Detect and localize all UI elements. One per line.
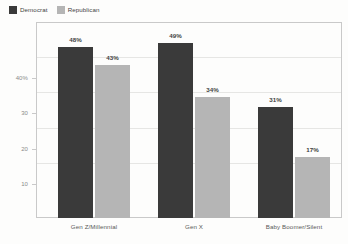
bar-republican-baby-boomer[interactable] xyxy=(295,157,330,218)
legend-label-republican: Republican xyxy=(68,6,100,14)
bar-value-republican-gen-x: 34% xyxy=(195,86,230,94)
bar-chart: Democrat Republican 40% 30 20 10 48% 43% xyxy=(0,0,348,244)
x-tick-label-baby-boomer-silent: Baby Boomer/Silent xyxy=(248,223,340,231)
legend-item-republican[interactable]: Republican xyxy=(57,6,100,14)
legend-label-democrat: Democrat xyxy=(20,6,48,14)
y-axis: 40% 30 20 10 xyxy=(0,22,36,218)
chart-legend: Democrat Republican xyxy=(9,4,100,15)
y-tick-label-40: 40% xyxy=(0,75,28,82)
y-tick-label-20: 20 xyxy=(0,146,28,153)
bar-value-republican-gen-z: 43% xyxy=(95,54,130,62)
x-tick-label-gen-z-millennial: Gen Z/Millennial xyxy=(48,223,140,231)
bar-democrat-baby-boomer[interactable] xyxy=(258,107,293,218)
y-tick-label-10: 10 xyxy=(0,181,28,188)
bar-republican-gen-x[interactable] xyxy=(195,97,230,218)
bar-value-democrat-gen-x: 49% xyxy=(158,32,193,40)
legend-swatch-democrat xyxy=(9,6,17,14)
legend-swatch-republican xyxy=(57,6,65,14)
bars-layer: 48% 43% 49% 34% 31% 17% xyxy=(36,22,342,218)
x-axis: Gen Z/Millennial Gen X Baby Boomer/Silen… xyxy=(36,218,342,242)
bar-democrat-gen-x[interactable] xyxy=(158,43,193,218)
bar-democrat-gen-z[interactable] xyxy=(58,47,93,218)
legend-item-democrat[interactable]: Democrat xyxy=(9,6,48,14)
bar-group-gen-x: 49% 34% xyxy=(158,22,230,218)
y-tick-label-30: 30 xyxy=(0,110,28,117)
bar-value-democrat-baby-boomer: 31% xyxy=(258,96,293,104)
x-tick-label-gen-x: Gen X xyxy=(148,223,240,231)
bar-group-gen-z-millennial: 48% 43% xyxy=(58,22,130,218)
bar-group-baby-boomer-silent: 31% 17% xyxy=(258,22,330,218)
bar-value-republican-baby-boomer: 17% xyxy=(295,146,330,154)
bar-value-democrat-gen-z: 48% xyxy=(58,36,93,44)
bar-republican-gen-z[interactable] xyxy=(95,65,130,218)
